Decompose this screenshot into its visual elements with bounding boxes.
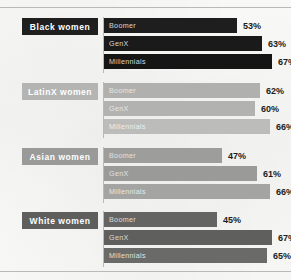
bar-value-label: 63% <box>262 36 286 51</box>
bar: Boomer <box>104 83 260 98</box>
bar-value-label: 66% <box>270 184 291 199</box>
bar: Millennials <box>104 248 267 263</box>
bar-series-label: Boomer <box>104 86 136 95</box>
bar: Millennials <box>104 54 272 69</box>
bar-series-label: Millennials <box>104 187 146 196</box>
bar-value-label: 47% <box>222 148 246 163</box>
bar-value-label: 66% <box>270 119 291 134</box>
bar-series-label: Millennials <box>104 122 146 131</box>
bar-series-label: GenX <box>104 39 129 48</box>
bar-value-label: 60% <box>255 101 279 116</box>
bar-value-label: 62% <box>260 83 284 98</box>
bar-value-label: 53% <box>237 18 261 33</box>
bar: GenX <box>104 166 257 181</box>
bar-series-label: GenX <box>104 169 129 178</box>
bar-series-label: Millennials <box>104 251 146 260</box>
category-label-chip: Asian women <box>22 148 98 165</box>
bar: Boomer <box>104 212 217 227</box>
bar-series-label: Millennials <box>104 57 146 66</box>
bar: Millennials <box>104 184 270 199</box>
bar-series-label: GenX <box>104 104 129 113</box>
bar-value-label: 45% <box>217 212 241 227</box>
bar-value-label: 67% <box>272 230 291 245</box>
category-label-chip: LatinX women <box>22 83 98 100</box>
bar: Millennials <box>104 119 270 134</box>
chart-root: Black womenBoomer53%GenX63%Millennials67… <box>0 0 291 280</box>
bar-series-label: Boomer <box>104 215 136 224</box>
bar: Boomer <box>104 148 222 163</box>
category-label-chip: White women <box>22 212 98 229</box>
bar-group-container: Black womenBoomer53%GenX63%Millennials67… <box>0 0 291 280</box>
bar-series-label: Boomer <box>104 21 136 30</box>
bar: GenX <box>104 230 272 245</box>
category-label-chip: Black women <box>22 18 98 35</box>
bar-series-label: Boomer <box>104 151 136 160</box>
bar: GenX <box>104 101 255 116</box>
bar-value-label: 67% <box>272 54 291 69</box>
bar: GenX <box>104 36 262 51</box>
bar-value-label: 61% <box>257 166 281 181</box>
bar: Boomer <box>104 18 237 33</box>
bar-series-label: GenX <box>104 233 129 242</box>
bar-value-label: 65% <box>267 248 291 263</box>
